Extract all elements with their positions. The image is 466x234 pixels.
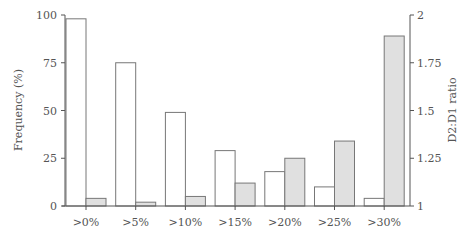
bar-ratio <box>136 202 156 206</box>
x-tick-label: >10% <box>169 216 203 229</box>
y-tick-label: 100 <box>36 9 57 22</box>
bar-ratio <box>185 196 205 206</box>
x-tick-label: >15% <box>218 216 252 229</box>
y-tick-label: 75 <box>43 57 57 70</box>
y-axis-label: Frequency (%) <box>12 69 25 151</box>
x-tick-label: >20% <box>268 216 302 229</box>
bar-frequency <box>165 112 185 206</box>
y2-tick-label: 1.75 <box>417 57 442 70</box>
bar-ratio <box>384 36 404 206</box>
x-tick-label: >25% <box>318 216 352 229</box>
y2-tick-label: 2 <box>417 9 424 22</box>
y2-tick-label: 1 <box>417 200 424 213</box>
y-tick-label: 25 <box>43 152 57 165</box>
bars-group <box>66 19 404 206</box>
y2-axis-label: D2:D1 ratio <box>446 77 459 143</box>
bar-frequency <box>66 19 86 206</box>
bar-ratio <box>335 141 355 206</box>
bar-frequency <box>116 63 136 206</box>
y2-tick-label: 1.25 <box>417 152 442 165</box>
x-tick-label: >0% <box>73 216 100 229</box>
bar-frequency <box>315 187 335 206</box>
y-tick-label: 0 <box>50 200 57 213</box>
y-tick-label: 50 <box>43 105 57 118</box>
bar-ratio <box>235 183 255 206</box>
x-tick-label: >30% <box>367 216 401 229</box>
y2-tick-label: 1.5 <box>417 105 435 118</box>
dual-axis-bar-chart: >0%>5%>10%>15%>20%>25%>30%025507510011.2… <box>0 0 466 234</box>
bar-ratio <box>285 158 305 206</box>
bar-ratio <box>86 198 106 206</box>
bar-frequency <box>364 198 384 206</box>
bar-frequency <box>265 172 285 206</box>
bar-frequency <box>215 151 235 206</box>
x-tick-label: >5% <box>122 216 149 229</box>
